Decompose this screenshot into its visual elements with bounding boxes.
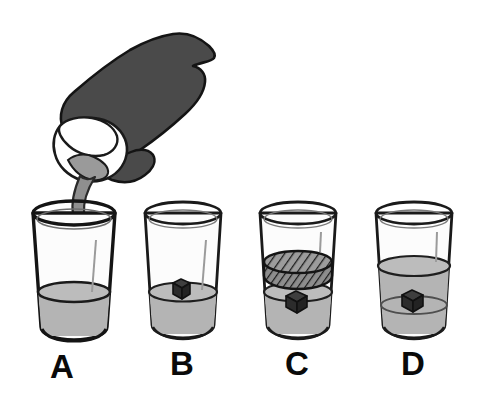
panel-label-c: C (285, 345, 309, 382)
glass-b-cube (173, 279, 190, 299)
panel-label-a: A (50, 348, 74, 385)
glass-d-highlight (436, 232, 437, 262)
glass-c-hatched-disk (264, 251, 332, 289)
glass-b-group (145, 202, 221, 339)
glass-c-group (260, 202, 336, 339)
illustration-figure: A B C D (0, 0, 488, 402)
glass-d-liquid-surface (378, 256, 450, 276)
glass-a-liquid-surface (38, 282, 110, 302)
four-glasses-illustration: A B C D (0, 0, 488, 402)
glass-c-highlight (320, 232, 321, 252)
glass-a-group (33, 201, 115, 341)
glass-d-group (376, 202, 452, 339)
panel-label-b: B (170, 345, 194, 382)
panel-label-d: D (401, 345, 425, 382)
